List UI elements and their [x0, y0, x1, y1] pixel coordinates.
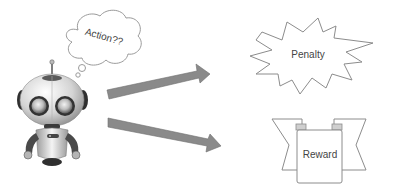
reward-outcome: Reward — [272, 119, 366, 183]
robot-body — [36, 128, 68, 159]
arrow-to-penalty — [107, 64, 210, 99]
robot-base — [42, 158, 62, 166]
thought-bubble: Action?? — [66, 10, 141, 77]
thought-dot-small — [76, 73, 80, 77]
penalty-outcome: Penalty — [250, 18, 373, 94]
thought-dot-large — [79, 65, 86, 72]
reward-label: Reward — [303, 149, 337, 160]
action-arrows — [107, 64, 221, 152]
rl-diagram: Action?? Pe — [0, 0, 394, 189]
penalty-label: Penalty — [291, 49, 324, 60]
arrow-to-reward — [108, 118, 221, 152]
